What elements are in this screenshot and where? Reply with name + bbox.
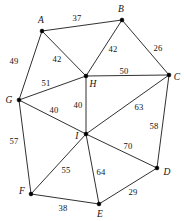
edge-weight-b-h: 42	[109, 45, 118, 54]
vertex-label-i: I	[75, 132, 78, 142]
graph-vertex-d	[155, 166, 159, 170]
graph-edge-g-f	[19, 100, 31, 194]
graph-vertex-f	[29, 192, 33, 196]
graph-vertex-b	[120, 18, 124, 22]
vertex-label-g: G	[6, 96, 13, 106]
edge-weight-i-d: 70	[124, 142, 133, 151]
vertex-label-d: D	[164, 168, 171, 178]
graph-vertex-i	[84, 132, 88, 136]
graph-vertex-c	[167, 73, 171, 77]
edge-weight-h-i: 40	[74, 101, 83, 110]
graph-edge-a-g	[19, 31, 42, 100]
edge-weight-g-i: 40	[50, 106, 59, 115]
vertex-label-a: A	[38, 16, 44, 26]
vertex-label-b: B	[118, 5, 124, 15]
edges-group	[19, 20, 169, 204]
graph-vertex-g	[17, 98, 21, 102]
vertex-label-h: H	[90, 80, 97, 90]
edge-weight-f-e: 38	[59, 204, 68, 213]
graph-edge-c-d	[157, 75, 169, 168]
graph-edge-a-b	[42, 20, 122, 31]
graph-vertex-e	[97, 202, 101, 206]
edge-weight-i-c: 63	[135, 103, 144, 112]
graph-edge-a-h	[42, 31, 86, 76]
graph-vertex-h	[84, 74, 88, 78]
vertex-label-f: F	[19, 187, 25, 197]
edge-weight-i-f: 55	[62, 166, 71, 175]
edge-weight-b-c: 26	[154, 44, 163, 53]
graph-vertex-a	[40, 29, 44, 33]
edge-weight-a-b: 37	[73, 14, 82, 23]
vertex-label-e: E	[97, 210, 103, 220]
graph-canvas	[0, 0, 184, 221]
graph-edge-i-f	[31, 134, 86, 194]
edge-weight-g-f: 57	[10, 137, 19, 146]
edge-weight-a-h: 42	[53, 55, 62, 64]
graph-edge-g-h	[19, 76, 86, 100]
graph-edge-i-d	[86, 134, 157, 168]
edge-weight-h-c: 50	[120, 67, 129, 76]
edge-weight-g-h: 51	[42, 79, 51, 88]
edge-weight-c-d: 58	[150, 122, 159, 131]
weighted-graph-figure: 3749424226505851404057637055643829ABCDEF…	[0, 0, 184, 221]
edge-weight-i-e: 64	[97, 168, 106, 177]
vertex-label-c: C	[174, 73, 180, 83]
edge-weight-a-g: 49	[10, 57, 19, 66]
edge-weight-e-d: 29	[129, 188, 138, 197]
